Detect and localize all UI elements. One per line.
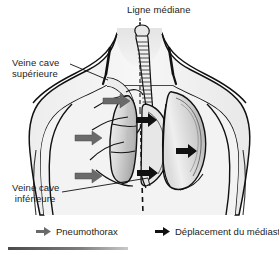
- label-veine-cave-superieure: Veine cavesupérieure: [12, 57, 59, 79]
- pneumothorax-legend-arrow-icon: [36, 226, 51, 237]
- legend-item-pneumothorax: Pneumothorax: [36, 226, 118, 237]
- svc-line-2: supérieure: [12, 68, 58, 79]
- footer-rule: [8, 247, 128, 250]
- ivc-line-1: Veine cave: [12, 182, 59, 193]
- chest-illustration: [0, 0, 279, 254]
- pneumothorax-diagram: Ligne médiane Veine cavesupérieure Veine…: [0, 0, 279, 254]
- label-veine-cave-inferieure: Veine cave inférieure: [12, 182, 59, 204]
- mediastinal-shift-legend-arrow-icon: [155, 226, 170, 237]
- svc-line-1: Veine cave: [12, 57, 59, 68]
- legend-label-mediastinal-shift: Déplacement du médiastin: [175, 226, 279, 237]
- legend-label-pneumothorax: Pneumothorax: [56, 226, 118, 237]
- legend-item-mediastinal-shift: Déplacement du médiastin: [155, 226, 279, 237]
- label-ligne-mediane: Ligne médiane: [127, 4, 191, 15]
- ivc-line-2: inférieure: [15, 193, 56, 204]
